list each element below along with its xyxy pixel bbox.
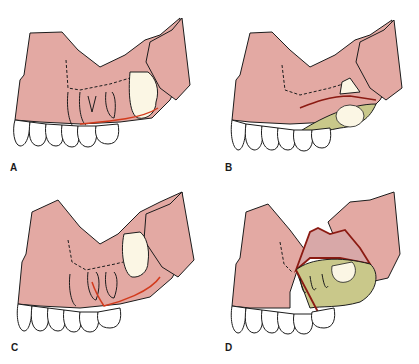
maxilla-illustration-b: [210, 0, 419, 182]
panel-label-a: A: [10, 162, 17, 173]
maxilla-illustration-d: [210, 182, 419, 364]
panel-b: B: [210, 0, 419, 182]
panel-d: D: [210, 182, 419, 364]
panel-label-d: D: [225, 342, 232, 353]
panel-label-c: C: [11, 342, 18, 353]
maxilla-illustration-a: [0, 0, 209, 182]
maxilla-illustration-c: [0, 182, 209, 364]
panel-label-b: B: [225, 162, 232, 173]
panel-a: A: [0, 0, 209, 182]
panel-c: C: [0, 182, 209, 364]
